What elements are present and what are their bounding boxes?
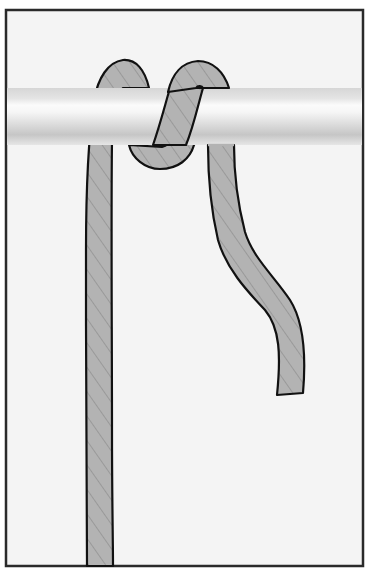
diagram-svg xyxy=(0,0,377,570)
hitch-diagram: Rope hitch around a horizontal bar xyxy=(0,0,377,570)
